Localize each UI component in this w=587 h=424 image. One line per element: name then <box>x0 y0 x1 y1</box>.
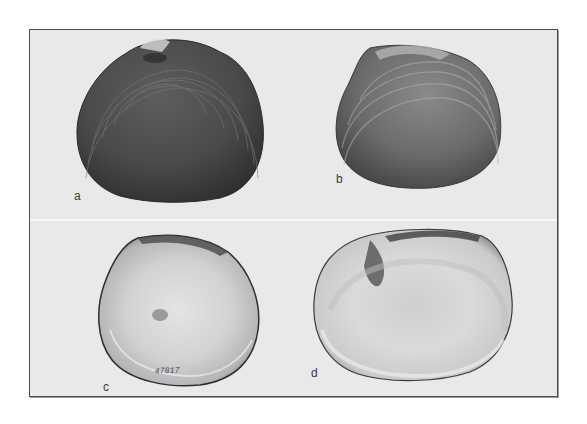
panel-label-b: b <box>336 173 343 185</box>
panel-label-d: d <box>311 367 318 379</box>
panel-label-c: c <box>103 381 109 393</box>
shell-d <box>314 229 512 380</box>
shell-a <box>77 39 263 202</box>
shell-b <box>336 45 501 188</box>
specimen-number: 47817 <box>155 366 180 376</box>
shell-c <box>99 235 259 385</box>
figure-plate: a b c d 47817 <box>29 29 558 397</box>
panel-label-a: a <box>74 190 81 202</box>
shell-photographs <box>30 30 557 396</box>
